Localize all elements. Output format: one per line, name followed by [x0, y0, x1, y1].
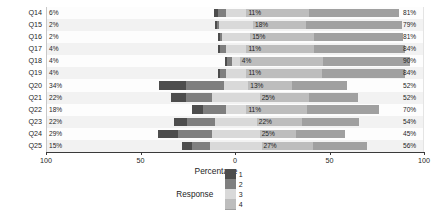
- positive-total-label: 84%: [403, 67, 416, 79]
- bar-row[interactable]: 2%15%81%: [47, 31, 423, 43]
- bar-segment-3[interactable]: [212, 130, 259, 138]
- positive-total-label: 84%: [403, 43, 416, 55]
- bar-row[interactable]: 4%11%84%: [47, 67, 423, 79]
- bar-segment-3[interactable]: [226, 45, 247, 53]
- bar-segment-3[interactable]: [215, 118, 257, 126]
- neutral-label: 11%: [248, 7, 261, 19]
- negative-total-label: 15%: [49, 140, 62, 152]
- legend-item-3[interactable]: 3: [225, 189, 242, 199]
- bar-segment-3[interactable]: [219, 21, 253, 29]
- y-tick-q21: Q21: [0, 92, 42, 104]
- bar-segment-3[interactable]: [222, 33, 250, 41]
- negative-total-label: 2%: [49, 19, 59, 31]
- bar-row[interactable]: 4%4%90%: [47, 55, 423, 67]
- positive-total-label: 54%: [403, 116, 416, 128]
- bar-segment-3[interactable]: [210, 142, 261, 150]
- y-tick-q22: Q22: [0, 104, 42, 116]
- x-tick-label: 100: [418, 156, 430, 165]
- bar-segment-5[interactable]: [307, 105, 379, 113]
- bar-segment-2[interactable]: [186, 81, 224, 89]
- y-tick-q16: Q16: [0, 31, 42, 43]
- negative-total-label: 22%: [49, 116, 62, 128]
- legend-item-4[interactable]: 4: [225, 199, 242, 209]
- bar-segment-5[interactable]: [302, 118, 359, 126]
- bar-segment-3[interactable]: [212, 93, 259, 101]
- y-tick-q18: Q18: [0, 55, 42, 67]
- bar-segment-5[interactable]: [314, 33, 403, 41]
- neutral-label: 18%: [255, 19, 268, 31]
- bar-segment-2[interactable]: [192, 142, 211, 150]
- bar-segment-5[interactable]: [322, 69, 405, 77]
- bar-segment-1[interactable]: [159, 81, 185, 89]
- neutral-label: 11%: [248, 43, 261, 55]
- bar-segment-1[interactable]: [174, 118, 187, 126]
- x-tick-label: 0: [233, 156, 237, 165]
- legend-item-2[interactable]: 2: [225, 179, 242, 189]
- negative-total-label: 34%: [49, 80, 62, 92]
- bar-segment-2[interactable]: [178, 130, 212, 138]
- bar-segment-2[interactable]: [203, 105, 226, 113]
- negative-total-label: 4%: [49, 43, 59, 55]
- legend-item-5[interactable]: 5: [225, 209, 242, 210]
- positive-total-label: 81%: [403, 7, 416, 19]
- bar-row[interactable]: 29%25%45%: [47, 128, 423, 140]
- bar-row[interactable]: 18%11%70%: [47, 104, 423, 116]
- positive-total-label: 79%: [403, 19, 416, 31]
- bar-segment-1[interactable]: [158, 130, 179, 138]
- y-tick-q24: Q24: [0, 128, 42, 140]
- legend-label-1: 1: [239, 171, 243, 178]
- bar-row[interactable]: 22%25%52%: [47, 92, 423, 104]
- bar-segment-3[interactable]: [226, 69, 247, 77]
- bar-segment-3[interactable]: [226, 9, 247, 17]
- bar-segment-2[interactable]: [218, 9, 226, 17]
- x-tick-label: 50: [137, 156, 145, 165]
- neutral-label: 4%: [242, 55, 252, 67]
- positive-total-label: 56%: [403, 140, 416, 152]
- bar-row[interactable]: 22%22%54%: [47, 116, 423, 128]
- bar-row[interactable]: 15%27%56%: [47, 140, 423, 152]
- bar-segment-3[interactable]: [232, 57, 240, 65]
- x-tick-mark: [330, 152, 331, 155]
- negative-total-label: 6%: [49, 7, 59, 19]
- legend-item-1[interactable]: 1: [225, 169, 242, 179]
- plot-area: 6%11%81%2%18%79%2%15%81%4%11%84%4%4%90%4…: [46, 7, 424, 152]
- neutral-label: 27%: [264, 140, 277, 152]
- neutral-label: 25%: [262, 128, 275, 140]
- bar-segment-5[interactable]: [306, 21, 402, 29]
- bar-segment-1[interactable]: [171, 93, 186, 101]
- bar-segment-4[interactable]: [240, 57, 323, 65]
- bar-segment-5[interactable]: [313, 142, 368, 150]
- legend-label-3: 3: [239, 191, 243, 198]
- legend-title: Response: [176, 190, 213, 199]
- bar-segment-3[interactable]: [224, 81, 249, 89]
- bar-segment-2[interactable]: [187, 118, 215, 126]
- legend-swatch-2: [225, 179, 236, 189]
- positive-total-label: 45%: [403, 128, 416, 140]
- legend-swatch-1: [225, 169, 236, 179]
- y-tick-q20: Q20: [0, 80, 42, 92]
- bar-segment-2[interactable]: [186, 93, 212, 101]
- bar-segment-5[interactable]: [296, 130, 345, 138]
- positive-total-label: 70%: [403, 104, 416, 116]
- bar-segment-5[interactable]: [323, 57, 410, 65]
- likert-chart: Q14Q15Q16Q17Q18Q19Q20Q21Q22Q23Q24Q25 6%1…: [0, 0, 432, 210]
- bar-segment-5[interactable]: [314, 45, 405, 53]
- bar-row[interactable]: 4%11%84%: [47, 43, 423, 55]
- bar-segment-1[interactable]: [192, 105, 203, 113]
- bar-row[interactable]: 34%13%52%: [47, 80, 423, 92]
- legend-items: 12345: [225, 169, 255, 210]
- legend-label-4: 4: [239, 201, 243, 208]
- bar-segment-1[interactable]: [182, 142, 191, 150]
- legend-swatch-5: [225, 209, 236, 210]
- bar-row[interactable]: 6%11%81%: [47, 7, 423, 19]
- x-axis-title: Percentage: [0, 166, 432, 176]
- y-tick-q19: Q19: [0, 67, 42, 79]
- x-tick-mark: [424, 152, 425, 155]
- x-tick-mark: [141, 152, 142, 155]
- bar-row[interactable]: 2%18%79%: [47, 19, 423, 31]
- y-tick-q23: Q23: [0, 116, 42, 128]
- bar-segment-5[interactable]: [309, 93, 358, 101]
- bar-segment-5[interactable]: [292, 81, 347, 89]
- bar-segment-5[interactable]: [309, 9, 400, 17]
- bar-segment-3[interactable]: [226, 105, 247, 113]
